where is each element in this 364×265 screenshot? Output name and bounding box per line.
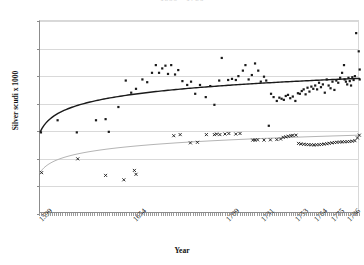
x-minor-tick <box>308 213 309 216</box>
x-minor-tick <box>148 213 149 216</box>
data-point <box>155 64 157 66</box>
x-minor-tick <box>254 213 255 216</box>
x-minor-tick <box>240 213 241 216</box>
x-minor-tick <box>118 213 119 216</box>
data-point <box>76 131 78 133</box>
x-minor-tick <box>282 213 283 216</box>
x-minor-tick <box>171 213 172 216</box>
x-minor-tick <box>45 213 46 216</box>
x-minor-tick <box>274 213 275 216</box>
data-point <box>359 68 361 70</box>
x-minor-tick <box>280 213 281 216</box>
x-minor-tick <box>214 213 215 216</box>
data-point <box>205 96 207 98</box>
data-point <box>358 50 360 52</box>
x-minor-tick <box>304 213 305 216</box>
x-minor-tick <box>212 213 213 216</box>
x-minor-tick <box>161 213 162 216</box>
data-point <box>320 86 322 88</box>
data-point <box>151 72 153 74</box>
x-minor-tick <box>263 213 264 216</box>
data-point <box>268 125 270 127</box>
x-minor-tick <box>180 213 181 216</box>
x-minor-tick <box>323 213 324 216</box>
data-point <box>234 133 237 136</box>
x-minor-tick <box>229 213 230 216</box>
data-point <box>270 93 272 95</box>
x-minor-tick <box>259 213 260 216</box>
x-minor-tick <box>94 213 95 216</box>
x-minor-tick <box>237 213 238 216</box>
x-minor-tick <box>257 213 258 216</box>
data-point <box>104 174 107 177</box>
x-minor-tick <box>178 213 179 216</box>
data-point <box>349 80 351 82</box>
x-minor-tick <box>86 213 87 216</box>
data-point <box>306 87 308 89</box>
x-minor-tick <box>252 213 253 216</box>
x-minor-tick <box>310 213 311 216</box>
x-minor-tick <box>133 213 134 216</box>
data-point <box>218 79 220 81</box>
x-minor-tick <box>158 213 159 216</box>
data-point <box>356 136 359 139</box>
x-minor-tick <box>120 213 121 216</box>
data-point <box>339 77 341 79</box>
data-point <box>335 79 337 81</box>
x-minor-tick <box>261 213 262 216</box>
x-minor-tick <box>199 213 200 216</box>
data-point <box>223 133 226 136</box>
x-minor-tick <box>297 213 298 216</box>
x-minor-tick <box>193 213 194 216</box>
data-point <box>344 78 346 80</box>
x-minor-tick <box>227 213 228 216</box>
x-minor-tick <box>124 213 125 216</box>
x-minor-tick <box>233 213 234 216</box>
x-minor-tick <box>41 213 42 216</box>
x-minor-tick <box>350 213 351 216</box>
x-minor-tick <box>197 213 198 216</box>
x-minor-tick <box>321 213 322 216</box>
data-point <box>172 134 175 137</box>
x-minor-tick <box>333 213 334 216</box>
data-point <box>179 133 182 136</box>
x-minor-tick <box>336 213 337 216</box>
data-point <box>351 76 353 78</box>
data-point <box>297 142 300 145</box>
upper-series-points <box>40 32 361 133</box>
x-minor-tick <box>220 213 221 216</box>
x-minor-tick <box>316 213 317 216</box>
data-point <box>350 84 352 86</box>
data-point <box>122 178 125 181</box>
x-minor-tick <box>314 213 315 216</box>
x-minor-tick <box>50 213 51 216</box>
x-minor-tick <box>116 213 117 216</box>
x-minor-tick <box>318 213 319 216</box>
data-point <box>285 95 287 97</box>
data-point <box>278 97 280 99</box>
lower-series-points <box>40 132 361 181</box>
x-minor-tick <box>291 213 292 216</box>
data-point <box>117 106 119 108</box>
data-point <box>324 92 326 94</box>
x-minor-tick <box>48 213 49 216</box>
x-minor-tick <box>92 213 93 216</box>
data-point <box>205 133 208 136</box>
data-point <box>190 81 192 83</box>
x-minor-tick <box>222 213 223 216</box>
data-point <box>239 132 242 135</box>
data-point <box>254 62 256 64</box>
plot-area <box>39 20 359 213</box>
x-minor-tick <box>154 213 155 216</box>
x-minor-tick <box>97 213 98 216</box>
x-minor-tick <box>186 213 187 216</box>
data-point <box>299 93 301 95</box>
data-point <box>333 89 335 91</box>
data-point <box>328 84 330 86</box>
x-minor-tick <box>216 213 217 216</box>
data-point <box>105 118 107 120</box>
x-minor-tick <box>52 213 53 216</box>
data-point <box>289 97 291 99</box>
data-point <box>231 78 233 80</box>
x-minor-tick <box>184 213 185 216</box>
